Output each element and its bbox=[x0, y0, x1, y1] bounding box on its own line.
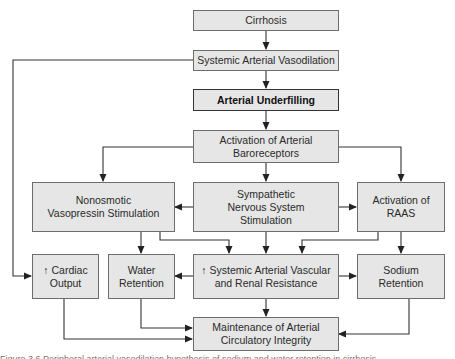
node-vascular-renal-resistance: ↑ Systemic Arterial Vascular and Renal R… bbox=[193, 254, 339, 299]
node-sympathetic-stimulation: Sympathetic Nervous System Stimulation bbox=[193, 182, 339, 232]
node-nonosmotic-vasopressin: Nonosmotic Vasopressin Stimulation bbox=[32, 182, 175, 232]
node-arterial-underfilling: Arterial Underfilling bbox=[193, 89, 339, 111]
node-circulatory-integrity: Maintenance of Arterial Circulatory Inte… bbox=[193, 317, 339, 351]
node-baroreceptor-activation: Activation of Arterial Baroreceptors bbox=[193, 130, 339, 163]
node-raas-activation: Activation of RAAS bbox=[357, 182, 445, 232]
arrow-baroreceptors-vasopressin bbox=[103, 147, 193, 181]
arrow-raas-resistance bbox=[302, 232, 378, 253]
arrow-baroreceptors-raas bbox=[338, 147, 401, 181]
node-water-retention: Water Retention bbox=[108, 254, 175, 299]
node-cardiac-output: ↑ Cardiac Output bbox=[32, 254, 99, 299]
node-systemic-arterial-vasodilation: Systemic Arterial Vasodilation bbox=[193, 50, 339, 71]
arrow-vasopressin-resistance bbox=[160, 232, 229, 253]
node-cirrhosis: Cirrhosis bbox=[193, 10, 339, 31]
arrow-cardiac-integrity bbox=[64, 299, 192, 339]
arrow-water-integrity bbox=[141, 299, 192, 328]
arrow-sodium-integrity bbox=[339, 299, 409, 334]
figure-caption: Figure 3.6 Peripheral arterial vasodilat… bbox=[0, 354, 455, 359]
node-sodium-retention: Sodium Retention bbox=[357, 254, 445, 299]
